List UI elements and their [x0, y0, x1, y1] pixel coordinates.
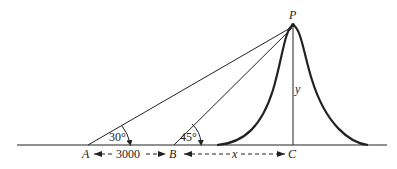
distance-label-ab: 3000 — [116, 147, 140, 161]
point-label-a: A — [81, 147, 90, 161]
point-label-p: P — [288, 8, 297, 22]
angle-label-b: 45° — [180, 130, 197, 144]
height-label-y: y — [294, 82, 301, 96]
distance-label-bc: x — [231, 147, 238, 161]
point-label-c: C — [288, 147, 297, 161]
sight-line-a-to-p — [88, 27, 292, 145]
point-p-marker — [291, 23, 295, 27]
angle-label-a: 30° — [109, 130, 126, 144]
point-label-b: B — [169, 147, 177, 161]
elevation-diagram: 30° 45° 3000 x A B C P y — [0, 0, 397, 169]
